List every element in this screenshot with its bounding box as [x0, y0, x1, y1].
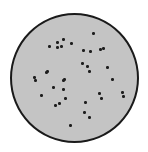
colony-dot — [63, 78, 66, 81]
colony-dot — [62, 38, 65, 41]
colony-dot — [54, 104, 57, 107]
colony-dot — [60, 45, 63, 48]
petri-dish — [10, 13, 139, 143]
colony-dot — [86, 65, 89, 68]
colony-dot — [70, 42, 73, 45]
colony-dot — [111, 78, 114, 81]
colony-dot — [56, 46, 59, 49]
colony-dot — [100, 97, 103, 100]
image-stage: Circular plate / field of view with scat… — [0, 0, 148, 152]
colony-dot — [83, 111, 86, 114]
colony-dot — [69, 124, 72, 127]
colony-dot — [81, 62, 84, 65]
colony-dot — [102, 47, 105, 50]
colony-dot — [52, 86, 55, 89]
colony-dot — [64, 97, 67, 100]
colony-dot — [89, 50, 92, 53]
colony-dot — [88, 116, 91, 119]
colony-dot — [62, 88, 65, 91]
colony-dot — [92, 32, 95, 35]
colony-dot — [82, 49, 85, 52]
colony-dot — [121, 91, 124, 94]
colony-dot — [106, 66, 109, 69]
colony-dot — [45, 71, 48, 74]
colony-dot — [98, 92, 101, 95]
colony-dot — [40, 94, 43, 97]
colony-dot — [48, 45, 51, 48]
colony-dot — [122, 95, 125, 98]
colony-dot — [56, 41, 59, 44]
colony-dot — [34, 79, 37, 82]
colony-dot — [58, 102, 61, 105]
colony-dot — [88, 70, 91, 73]
colony-dot — [84, 101, 87, 104]
